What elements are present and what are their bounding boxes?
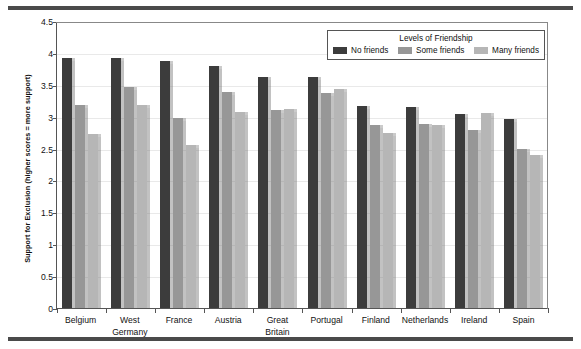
bar-face bbox=[504, 119, 514, 308]
bar bbox=[419, 124, 432, 308]
x-axis-tick-mark bbox=[352, 308, 353, 313]
legend-item[interactable]: No friends bbox=[333, 46, 388, 55]
bar-shadow bbox=[196, 148, 199, 308]
bar bbox=[173, 118, 186, 308]
legend-item[interactable]: Some friends bbox=[398, 46, 464, 55]
bar-face bbox=[468, 130, 478, 308]
y-axis-tick-label: 4.5 bbox=[41, 17, 53, 27]
bar-cap bbox=[318, 77, 321, 80]
bar bbox=[271, 110, 284, 308]
x-axis-label-line: Portugal bbox=[302, 315, 351, 327]
bar-face bbox=[455, 114, 465, 308]
plot-area: 00.511.522.533.544.5 bbox=[56, 22, 548, 309]
legend-swatch-icon bbox=[333, 47, 347, 54]
bar bbox=[284, 109, 297, 308]
bar-face bbox=[271, 110, 281, 308]
x-axis-tick-mark bbox=[106, 308, 107, 313]
bar bbox=[222, 92, 235, 308]
legend-label: No friends bbox=[351, 46, 388, 55]
y-axis-label: Support for Exclusion (higher scores = m… bbox=[23, 49, 32, 289]
bar-cap bbox=[465, 114, 468, 117]
bar-cap bbox=[121, 58, 124, 61]
bar bbox=[334, 89, 347, 308]
bar bbox=[308, 77, 321, 309]
bar-cap bbox=[245, 112, 248, 115]
bar bbox=[321, 93, 334, 308]
bar-group bbox=[401, 22, 450, 308]
bar-face bbox=[88, 134, 98, 308]
bar bbox=[370, 125, 383, 308]
bar-cap bbox=[232, 92, 235, 95]
bar-face bbox=[530, 155, 540, 308]
top-rule bbox=[8, 6, 573, 10]
x-axis-label: WestGermany bbox=[105, 315, 154, 338]
x-axis-label: Portugal bbox=[302, 315, 351, 338]
bar-face bbox=[62, 58, 72, 308]
bar-face bbox=[258, 77, 268, 309]
bar-group bbox=[155, 22, 204, 308]
bar-cap bbox=[147, 105, 150, 108]
bar-face bbox=[383, 133, 393, 308]
bar-group bbox=[204, 22, 253, 308]
bar-cap bbox=[416, 107, 419, 110]
x-axis-tick-mark bbox=[450, 308, 451, 313]
bar-face bbox=[284, 109, 294, 308]
x-axis-label-line: Ireland bbox=[450, 315, 499, 327]
bar bbox=[137, 105, 150, 308]
bar-face bbox=[235, 112, 245, 308]
y-axis-tick-label: 2.5 bbox=[41, 145, 53, 155]
bar-cap bbox=[196, 145, 199, 148]
bar-cap bbox=[540, 155, 543, 158]
bar-face bbox=[137, 105, 147, 308]
x-axis-tick-mark bbox=[548, 308, 549, 313]
bar bbox=[517, 149, 530, 308]
bar-face bbox=[186, 145, 196, 308]
bar bbox=[186, 145, 199, 308]
bar-cap bbox=[183, 118, 186, 121]
bar bbox=[530, 155, 543, 308]
bar-face bbox=[517, 149, 527, 308]
bar-face bbox=[357, 106, 367, 308]
bar bbox=[481, 113, 494, 308]
x-axis-label-line: Britain bbox=[253, 327, 302, 339]
legend-items: No friendsSome friendsMany friends bbox=[333, 46, 539, 55]
x-axis-label: France bbox=[154, 315, 203, 338]
y-axis-tick-label: 1.5 bbox=[41, 208, 53, 218]
y-axis-tick-label: 3.5 bbox=[41, 81, 53, 91]
x-axis-label-line: Netherlands bbox=[400, 315, 449, 327]
bar-group bbox=[499, 22, 548, 308]
x-axis-tick-mark bbox=[253, 308, 254, 313]
bar bbox=[357, 106, 370, 308]
legend-item[interactable]: Many friends bbox=[474, 46, 539, 55]
x-axis-label: Ireland bbox=[450, 315, 499, 338]
x-axis-label-line: Austria bbox=[204, 315, 253, 327]
bar-shadow bbox=[442, 128, 445, 308]
bar-cap bbox=[85, 105, 88, 108]
bar-cap bbox=[514, 119, 517, 122]
bar-shadow bbox=[245, 115, 248, 308]
legend-swatch-icon bbox=[398, 47, 412, 54]
bar bbox=[160, 61, 173, 308]
bar-shadow bbox=[491, 116, 494, 308]
bar-face bbox=[370, 125, 380, 308]
bar-shadow bbox=[344, 92, 347, 308]
legend-label: Some friends bbox=[416, 46, 464, 55]
bar-group bbox=[352, 22, 401, 308]
bar-cap bbox=[491, 113, 494, 116]
x-axis-label-line: Finland bbox=[351, 315, 400, 327]
x-axis-label-line: Great bbox=[253, 315, 302, 327]
bar bbox=[406, 107, 419, 308]
bar bbox=[62, 58, 75, 308]
bar bbox=[88, 134, 101, 308]
bar-groups bbox=[57, 22, 548, 308]
bar-face bbox=[432, 125, 442, 308]
bar-face bbox=[308, 77, 318, 309]
bar-group bbox=[302, 22, 351, 308]
x-axis-label: Spain bbox=[499, 315, 548, 338]
x-axis-tick-mark bbox=[155, 308, 156, 313]
bar-cap bbox=[367, 106, 370, 109]
bar-shadow bbox=[98, 137, 101, 308]
bar-face bbox=[222, 92, 232, 308]
bar-face bbox=[124, 87, 134, 308]
bar-chart-figure: Support for Exclusion (higher scores = m… bbox=[0, 14, 581, 334]
